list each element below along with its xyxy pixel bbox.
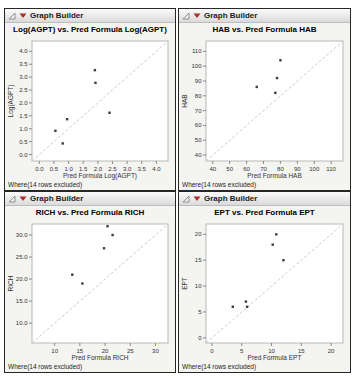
data-point[interactable]: [272, 243, 274, 245]
x-axis-label: Pred Formula HAB: [247, 172, 302, 179]
y-tick-label: 20: [195, 231, 202, 237]
red-triangle-menu-icon[interactable]: [193, 12, 201, 19]
y-tick-label: 5: [198, 309, 202, 315]
y-axis-label: Log(AGPT): [7, 85, 15, 118]
x-axis-label: Pred Formula Log(AGPT): [63, 172, 137, 180]
y-tick-label: 50: [195, 137, 202, 143]
x-axis-label: Pred Formula EPT: [248, 354, 302, 361]
disclosure-triangle-icon[interactable]: [8, 12, 16, 20]
y-tick-label: 0: [198, 335, 202, 341]
x-tick-label: 50: [226, 166, 233, 172]
panel-header[interactable]: Graph Builder: [5, 192, 175, 206]
data-point[interactable]: [62, 142, 64, 144]
graph-builder-panel-agpt: Graph Builder Log(AGPT) vs. Pred Formula…: [4, 8, 176, 191]
red-triangle-menu-icon[interactable]: [19, 195, 27, 202]
scatter-plot-area[interactable]: 405060708090100110405060708090100110Pred…: [179, 37, 350, 180]
data-point[interactable]: [111, 234, 113, 236]
scatter-plot-area[interactable]: 101520253010.015.020.025.030.0Pred Formu…: [5, 220, 175, 362]
y-tick-label: 0.5: [19, 139, 28, 145]
red-triangle-menu-icon[interactable]: [19, 12, 27, 19]
x-tick-label: 0: [210, 348, 214, 354]
y-tick-label: 10.0: [16, 320, 28, 326]
data-point[interactable]: [106, 225, 108, 227]
panel-header-label: Graph Builder: [204, 194, 257, 203]
x-tick-label: 100: [309, 166, 320, 172]
x-tick-label: 0.0: [35, 166, 44, 172]
x-tick-label: 4.0: [152, 166, 161, 172]
y-tick-label: 1.0: [19, 126, 28, 132]
data-point[interactable]: [256, 86, 258, 88]
disclosure-triangle-icon[interactable]: [8, 195, 16, 203]
data-point[interactable]: [71, 273, 73, 275]
chart-title: HAB vs. Pred Formula HAB: [179, 23, 350, 37]
x-tick-label: 5: [240, 348, 244, 354]
scatter-plot-area[interactable]: 0.00.51.01.52.02.53.03.54.00.00.51.01.52…: [5, 37, 175, 180]
disclosure-triangle-icon[interactable]: [182, 12, 190, 20]
data-point[interactable]: [232, 306, 234, 308]
x-tick-label: 2.5: [108, 166, 117, 172]
x-tick-label: 70: [260, 166, 267, 172]
y-tick-label: 2.5: [19, 87, 28, 93]
red-triangle-menu-icon[interactable]: [193, 195, 201, 202]
panel-header[interactable]: Graph Builder: [179, 9, 350, 23]
chart-title: RICH vs. Pred Formula RICH: [5, 206, 175, 220]
y-tick-label: 80: [195, 93, 202, 99]
x-tick-label: 60: [243, 166, 250, 172]
data-point[interactable]: [246, 306, 248, 308]
y-tick-label: 60: [195, 122, 202, 128]
x-tick-label: 80: [277, 166, 284, 172]
data-point[interactable]: [103, 247, 105, 249]
jmp-report-page: Graph Builder Log(AGPT) vs. Pred Formula…: [0, 0, 353, 380]
y-tick-label: 0.0: [19, 152, 28, 158]
panel-header-label: Graph Builder: [30, 11, 83, 20]
x-tick-label: 30: [152, 348, 159, 354]
x-tick-label: 3.0: [123, 166, 132, 172]
data-point[interactable]: [66, 118, 68, 120]
x-axis-label: Pred Formula RICH: [71, 354, 128, 361]
y-axis-label: RICH: [7, 275, 14, 291]
y-tick-label: 4.0: [19, 48, 28, 54]
data-point[interactable]: [245, 300, 247, 302]
y-tick-label: 3.5: [19, 61, 28, 67]
panel-header[interactable]: Graph Builder: [5, 9, 175, 23]
data-point[interactable]: [282, 259, 284, 261]
scatter-plot-svg[interactable]: 405060708090100110405060708090100110Pred…: [179, 37, 350, 180]
data-point[interactable]: [108, 112, 110, 114]
x-tick-label: 3.5: [138, 166, 147, 172]
where-clause-text: Where(14 rows excluded): [5, 362, 175, 372]
y-tick-label: 70: [195, 108, 202, 114]
y-tick-label: 1.5: [19, 113, 28, 119]
x-tick-label: 40: [209, 166, 216, 172]
panel-header[interactable]: Graph Builder: [179, 192, 350, 206]
panel-header-label: Graph Builder: [30, 194, 83, 203]
data-point[interactable]: [94, 69, 96, 71]
data-point[interactable]: [279, 59, 281, 61]
disclosure-triangle-icon[interactable]: [182, 195, 190, 203]
data-point[interactable]: [276, 77, 278, 79]
x-tick-label: 1.0: [64, 166, 73, 172]
scatter-plot-svg[interactable]: 101520253010.015.020.025.030.0Pred Formu…: [5, 220, 175, 362]
scatter-plot-area[interactable]: 0510152005101520Pred Formula EPTEPT: [179, 220, 350, 362]
chart-title: Log(AGPT) vs. Pred Formula Log(AGPT): [5, 23, 175, 37]
data-point[interactable]: [275, 233, 277, 235]
y-axis-label: EPT: [181, 277, 188, 290]
x-tick-label: 15: [298, 348, 305, 354]
data-point[interactable]: [81, 282, 83, 284]
y-tick-label: 20.0: [16, 276, 28, 282]
y-tick-label: 110: [192, 48, 202, 54]
x-tick-label: 20: [328, 348, 335, 354]
chart-title: EPT vs. Pred Formula EPT: [179, 206, 350, 220]
stray-mark-icon: [23, 0, 32, 7]
y-tick-label: 3.0: [19, 74, 28, 80]
y-tick-label: 15: [195, 257, 202, 263]
data-point[interactable]: [94, 82, 96, 84]
graph-builder-panel-ept: Graph Builder EPT vs. Pred Formula EPT 0…: [178, 191, 351, 373]
data-point[interactable]: [54, 130, 56, 132]
scatter-plot-svg[interactable]: 0510152005101520Pred Formula EPTEPT: [179, 220, 350, 362]
graph-builder-panel-rich: Graph Builder RICH vs. Pred Formula RICH…: [4, 191, 176, 373]
x-tick-label: 0.5: [50, 166, 59, 172]
x-tick-label: 15: [77, 348, 84, 354]
scatter-plot-svg[interactable]: 0.00.51.01.52.02.53.03.54.00.00.51.01.52…: [5, 37, 175, 180]
data-point[interactable]: [274, 92, 276, 94]
y-tick-label: 100: [191, 63, 202, 69]
